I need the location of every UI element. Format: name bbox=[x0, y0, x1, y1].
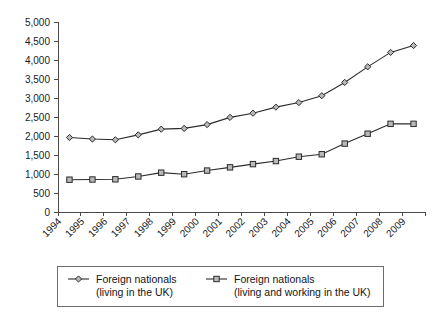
legend-label-line2: (living in the UK) bbox=[96, 286, 173, 298]
series-layer bbox=[66, 42, 416, 182]
x-tick-label: 1997 bbox=[109, 215, 133, 239]
data-point-marker-diamond bbox=[66, 134, 72, 140]
series-line-diamond bbox=[69, 46, 413, 140]
y-tick-label: 2,500 bbox=[25, 112, 50, 123]
legend-label-line2: (living and working in the UK) bbox=[234, 286, 371, 298]
data-point-marker-diamond bbox=[365, 64, 371, 70]
series-2 bbox=[67, 121, 416, 182]
data-point-marker-diamond-legend bbox=[75, 276, 81, 282]
x-tick-label: 2000 bbox=[178, 215, 202, 239]
data-point-marker-diamond bbox=[296, 99, 302, 105]
data-point-marker-diamond bbox=[250, 110, 256, 116]
data-point-marker-diamond bbox=[342, 79, 348, 85]
y-axis-tick-group: 05001,0001,5002,0002,5003,0003,5004,0004… bbox=[25, 17, 58, 218]
data-point-marker-diamond bbox=[158, 126, 164, 132]
y-tick-label: 3,000 bbox=[25, 93, 50, 104]
y-tick-label: 3,500 bbox=[25, 74, 50, 85]
data-point-marker-diamond bbox=[112, 137, 118, 143]
x-tick-label: 2009 bbox=[384, 215, 408, 239]
data-point-marker-square bbox=[411, 121, 416, 126]
data-point-marker-square bbox=[319, 152, 324, 157]
data-point-marker-diamond bbox=[319, 93, 325, 99]
x-tick-label: 2005 bbox=[292, 215, 316, 239]
data-point-marker-diamond bbox=[410, 42, 416, 48]
data-point-marker-diamond bbox=[135, 132, 141, 138]
data-point-marker-square-legend bbox=[214, 276, 219, 281]
line-chart: 05001,0001,5002,0002,5003,0003,5004,0004… bbox=[0, 0, 437, 313]
y-tick-label: 1,500 bbox=[25, 150, 50, 161]
x-tick-label: 2007 bbox=[338, 215, 362, 239]
data-point-marker-diamond bbox=[181, 125, 187, 131]
data-point-marker-square bbox=[365, 131, 370, 136]
y-tick-label: 5,000 bbox=[25, 17, 50, 28]
x-tick-label: 2002 bbox=[223, 215, 247, 239]
data-point-marker-square bbox=[273, 158, 278, 163]
data-point-marker-diamond bbox=[227, 114, 233, 120]
data-point-marker-diamond bbox=[273, 104, 279, 110]
x-axis-tick-group: 1994199519961997199819992000200120022003… bbox=[40, 212, 425, 239]
data-point-marker-square bbox=[136, 174, 141, 179]
y-tick-label: 4,000 bbox=[25, 55, 50, 66]
data-point-marker-diamond bbox=[387, 49, 393, 55]
legend-label-line1: Foreign nationals bbox=[234, 273, 315, 285]
y-tick-label: 1,000 bbox=[25, 169, 50, 180]
data-point-marker-square bbox=[204, 168, 209, 173]
data-point-marker-square bbox=[342, 141, 347, 146]
x-tick-label: 1994 bbox=[40, 215, 64, 239]
x-tick-label: 2006 bbox=[315, 215, 339, 239]
x-tick-label: 2004 bbox=[269, 215, 293, 239]
x-tick-label: 2001 bbox=[200, 215, 224, 239]
y-tick-label: 0 bbox=[44, 207, 50, 218]
data-point-marker-square bbox=[90, 177, 95, 182]
series-1 bbox=[66, 42, 416, 142]
x-tick-label: 1996 bbox=[86, 215, 110, 239]
data-point-marker-square bbox=[296, 154, 301, 159]
data-point-marker-square bbox=[181, 171, 186, 176]
chart-legend: Foreign nationals(living in the UK)Forei… bbox=[57, 266, 383, 306]
series-line-square bbox=[69, 124, 413, 180]
legend-label-line1: Foreign nationals bbox=[96, 273, 177, 285]
data-point-marker-square bbox=[113, 177, 118, 182]
x-tick-label: 2008 bbox=[361, 215, 385, 239]
data-point-marker-diamond bbox=[204, 122, 210, 128]
x-tick-label: 1995 bbox=[63, 215, 87, 239]
chart-container: 05001,0001,5002,0002,5003,0003,5004,0004… bbox=[0, 0, 437, 313]
data-point-marker-square bbox=[227, 165, 232, 170]
data-point-marker-diamond bbox=[89, 136, 95, 142]
x-tick-label: 1998 bbox=[132, 215, 156, 239]
data-point-marker-square bbox=[67, 177, 72, 182]
x-tick-label: 2003 bbox=[246, 215, 270, 239]
data-point-marker-square bbox=[250, 161, 255, 166]
x-tick-label: 1999 bbox=[155, 215, 179, 239]
legend-entry-2[interactable]: Foreign nationals(living and working in … bbox=[206, 273, 371, 299]
legend-entry-1[interactable]: Foreign nationals(living in the UK) bbox=[68, 273, 177, 299]
data-point-marker-square bbox=[159, 170, 164, 175]
y-tick-label: 2,000 bbox=[25, 131, 50, 142]
y-tick-label: 4,500 bbox=[25, 36, 50, 47]
data-point-marker-square bbox=[388, 121, 393, 126]
y-tick-label: 500 bbox=[33, 188, 50, 199]
